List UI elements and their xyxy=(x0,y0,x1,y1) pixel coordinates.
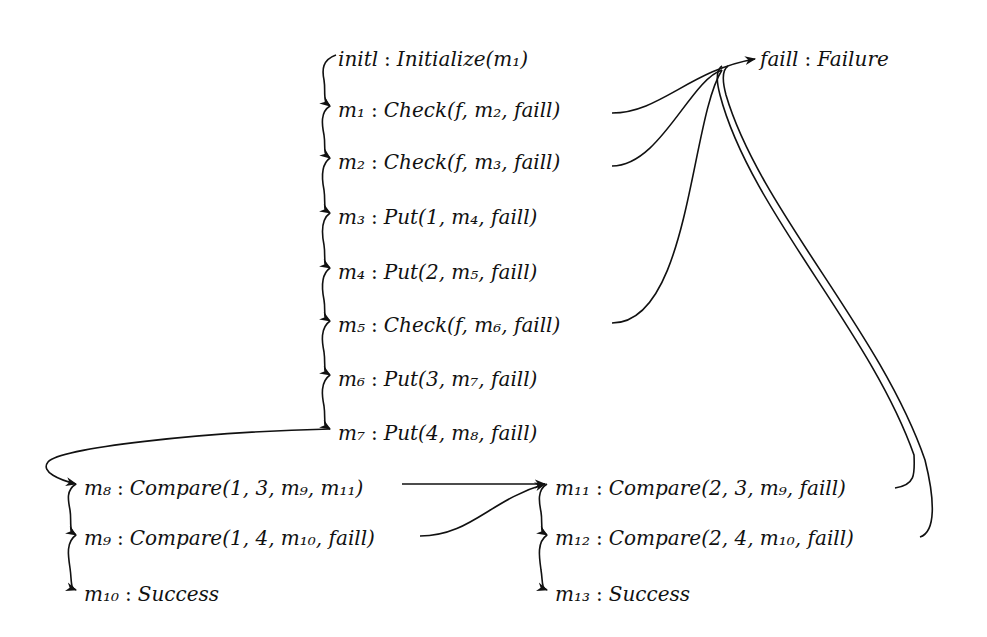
node-separator: : xyxy=(371,367,378,391)
node-label: m₁ xyxy=(338,98,365,122)
node-m13: m₁₃:Success xyxy=(555,582,690,606)
node-m4: m₄:Put(2, m₅, faill) xyxy=(338,260,537,284)
node-op: Compare(1, 4, m₁₀, faill) xyxy=(130,526,375,550)
edge-m11-faill xyxy=(717,66,914,488)
node-separator: : xyxy=(371,98,378,122)
node-op: Check(f, m₂, faill) xyxy=(384,98,561,122)
node-m12: m₁₂:Compare(2, 4, m₁₀, faill) xyxy=(555,526,854,550)
node-initl: initl:Initialize(m₁) xyxy=(338,47,528,71)
edge-m12-faill xyxy=(723,66,932,537)
node-separator: : xyxy=(371,313,378,337)
node-label: m₈ xyxy=(84,476,111,500)
edge-m3-m4 xyxy=(322,213,330,268)
edge-m9-m10 xyxy=(68,535,76,590)
node-m1: m₁:Check(f, m₂, faill) xyxy=(338,98,560,122)
node-op: Compare(2, 4, m₁₀, faill) xyxy=(609,526,854,550)
node-label: m₆ xyxy=(338,367,365,391)
edge-m5-m6 xyxy=(322,321,330,375)
node-m11: m₁₁:Compare(2, 3, m₉, faill) xyxy=(555,476,846,500)
node-label: m₅ xyxy=(338,313,365,337)
node-m2: m₂:Check(f, m₃, faill) xyxy=(338,150,560,174)
node-label: m₁₀ xyxy=(84,582,119,606)
node-op: Success xyxy=(138,582,219,606)
node-label: m₁₁ xyxy=(555,476,590,500)
edge-m11-m12 xyxy=(539,484,547,535)
edge-m12-m13 xyxy=(539,535,547,590)
edge-initl-m1 xyxy=(323,55,336,106)
node-m8: m₈:Compare(1, 3, m₉, m₁₁) xyxy=(84,476,363,500)
node-op: Success xyxy=(609,582,690,606)
node-separator: : xyxy=(117,526,124,550)
node-m10: m₁₀:Success xyxy=(84,582,219,606)
node-separator: : xyxy=(596,582,603,606)
node-op: Failure xyxy=(817,47,889,71)
node-label: m₇ xyxy=(338,421,365,445)
edge-m5-faill xyxy=(612,70,722,323)
node-separator: : xyxy=(125,582,132,606)
node-op: Compare(1, 3, m₉, m₁₁) xyxy=(130,476,364,500)
node-label: initl xyxy=(338,47,378,71)
node-op: Compare(2, 3, m₉, faill) xyxy=(609,476,846,500)
node-m3: m₃:Put(1, m₄, faill) xyxy=(338,205,537,229)
node-op: Put(3, m₇, faill) xyxy=(384,367,538,391)
node-separator: : xyxy=(384,47,391,71)
node-op: Initialize(m₁) xyxy=(397,47,528,71)
node-separator: : xyxy=(371,150,378,174)
edge-m4-m5 xyxy=(322,268,330,321)
node-label: m₂ xyxy=(338,150,365,174)
node-label: m₃ xyxy=(338,205,365,229)
node-m9: m₉:Compare(1, 4, m₁₀, faill) xyxy=(84,526,375,550)
node-label: m₁₃ xyxy=(555,582,590,606)
node-op: Put(2, m₅, faill) xyxy=(384,260,538,284)
node-separator: : xyxy=(596,526,603,550)
node-m7: m₇:Put(4, m₈, faill) xyxy=(338,421,537,445)
node-op: Put(4, m₈, faill) xyxy=(384,421,538,445)
edge-m1-m2 xyxy=(322,106,330,158)
node-separator: : xyxy=(805,47,812,71)
node-m5: m₅:Check(f, m₆, faill) xyxy=(338,313,560,337)
node-op: Put(1, m₄, faill) xyxy=(384,205,538,229)
node-label: m₉ xyxy=(84,526,111,550)
edge-m2-m3 xyxy=(322,158,330,213)
node-label: m₄ xyxy=(338,260,365,284)
edge-m8-m9 xyxy=(68,484,76,535)
edge-m1-faill xyxy=(612,59,755,113)
node-op: Check(f, m₆, faill) xyxy=(384,313,561,337)
node-separator: : xyxy=(371,260,378,284)
edge-m9-m11 xyxy=(420,484,545,536)
flow-diagram: initl:Initialize(m₁) m₁:Check(f, m₂, fai… xyxy=(0,0,987,637)
node-separator: : xyxy=(371,205,378,229)
node-separator: : xyxy=(596,476,603,500)
edge-m6-m7 xyxy=(322,375,330,429)
node-m6: m₆:Put(3, m₇, faill) xyxy=(338,367,537,391)
node-faill: faill:Failure xyxy=(760,47,889,71)
node-label: m₁₂ xyxy=(555,526,590,550)
node-separator: : xyxy=(117,476,124,500)
node-label: faill xyxy=(760,47,799,71)
node-op: Check(f, m₃, faill) xyxy=(384,150,561,174)
node-separator: : xyxy=(371,421,378,445)
